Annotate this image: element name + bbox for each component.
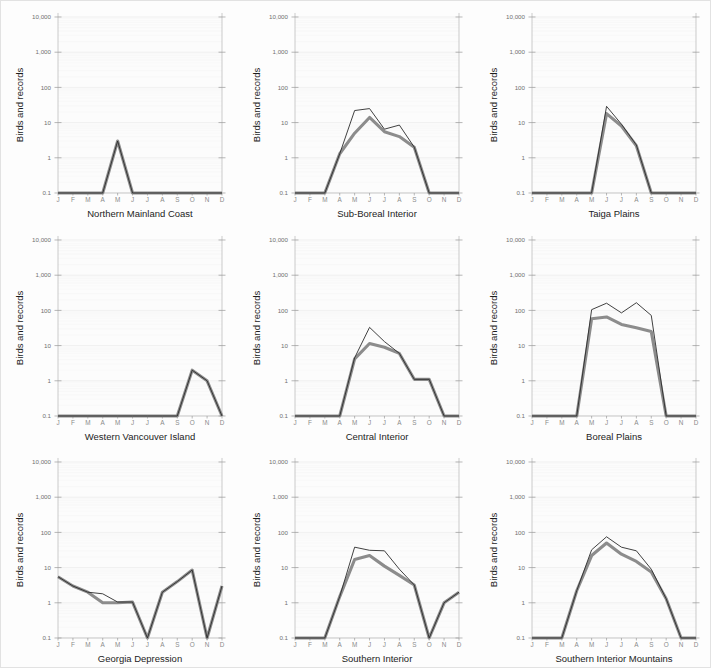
chart-panel: 0.11101001,00010,000JFMAMJJASONDBirds an…: [238, 1, 475, 224]
figure-panel-grid: 0.11101001,00010,000JFMAMJJASONDBirds an…: [0, 0, 711, 668]
y-tick-label: 0.1: [42, 412, 51, 419]
x-tick-label: N: [679, 419, 684, 426]
y-tick-label: 100: [515, 306, 526, 313]
x-tick-label: M: [559, 642, 564, 649]
x-tick-label: A: [101, 419, 106, 426]
x-tick-label: M: [589, 642, 594, 649]
y-tick-label: 100: [41, 529, 52, 536]
line-chart-7: 0.11101001,00010,000JFMAMJJASONDBirds an…: [1, 446, 238, 668]
y-tick-label: 10: [44, 341, 51, 348]
x-tick-label: M: [352, 642, 357, 649]
y-tick-label: 100: [278, 529, 289, 536]
chart-panel: 0.11101001,00010,000JFMAMJJASONDBirds an…: [1, 446, 238, 668]
line-chart-2: 0.11101001,00010,000JFMAMJJASONDBirds an…: [238, 1, 475, 224]
x-tick-label: N: [679, 196, 684, 203]
x-tick-label: M: [85, 642, 90, 649]
x-tick-label: A: [101, 196, 106, 203]
y-tick-label: 1: [48, 154, 52, 161]
x-tick-label: J: [368, 642, 371, 649]
y-axis-label: Birds and records: [488, 68, 499, 143]
y-tick-label: 10: [518, 341, 525, 348]
y-tick-label: 10: [44, 119, 51, 126]
x-tick-label: J: [293, 196, 296, 203]
x-tick-label: A: [397, 419, 402, 426]
y-axis-label: Birds and records: [14, 68, 25, 143]
x-tick-label: J: [368, 196, 371, 203]
x-tick-label: N: [205, 419, 210, 426]
x-tick-label: A: [634, 419, 639, 426]
x-tick-label: M: [589, 196, 594, 203]
x-tick-label: F: [308, 419, 312, 426]
y-tick-label: 100: [41, 306, 52, 313]
x-tick-label: F: [545, 642, 549, 649]
x-tick-label: M: [115, 642, 120, 649]
x-tick-label: O: [427, 419, 432, 426]
y-axis-label: Birds and records: [488, 513, 499, 588]
x-tick-label: N: [205, 642, 210, 649]
y-tick-label: 10,000: [269, 13, 288, 20]
line-chart-3: 0.11101001,00010,000JFMAMJJASONDBirds an…: [475, 1, 711, 224]
chart-panel: 0.11101001,00010,000JFMAMJJASONDBirds an…: [238, 446, 475, 668]
x-tick-label: F: [71, 642, 75, 649]
x-tick-label: J: [146, 419, 149, 426]
x-tick-label: M: [352, 196, 357, 203]
y-tick-label: 1,000: [36, 271, 52, 278]
x-axis-ticks: JFMAMJJASOND: [293, 416, 461, 426]
y-tick-label: 1,000: [273, 494, 289, 501]
chart-panel: 0.11101001,00010,000JFMAMJJASONDBirds an…: [475, 446, 711, 668]
x-tick-label: O: [664, 642, 669, 649]
y-tick-label: 10: [518, 119, 525, 126]
x-tick-label: D: [694, 196, 699, 203]
x-tick-label: J: [56, 642, 59, 649]
chart-panel: 0.11101001,00010,000JFMAMJJASONDBirds an…: [1, 1, 238, 224]
chart-panel: 0.11101001,00010,000JFMAMJJASONDBirds an…: [1, 224, 238, 447]
x-tick-label: O: [190, 642, 195, 649]
x-tick-label: M: [115, 419, 120, 426]
line-chart-8: 0.11101001,00010,000JFMAMJJASONDBirds an…: [238, 446, 475, 668]
y-tick-label: 10: [281, 564, 288, 571]
x-tick-label: S: [412, 419, 416, 426]
x-tick-label: S: [412, 642, 416, 649]
panel-title: Southern Interior: [342, 653, 413, 664]
x-tick-label: F: [545, 196, 549, 203]
x-tick-label: A: [397, 196, 402, 203]
x-tick-label: S: [175, 642, 179, 649]
x-tick-label: O: [427, 642, 432, 649]
y-tick-label: 0.1: [516, 189, 525, 196]
x-tick-label: J: [605, 642, 608, 649]
y-tick-label: 1,000: [510, 271, 526, 278]
x-tick-label: N: [442, 642, 447, 649]
x-tick-label: J: [605, 196, 608, 203]
x-tick-label: O: [664, 196, 669, 203]
y-tick-label: 100: [515, 529, 526, 536]
x-tick-label: J: [383, 642, 386, 649]
x-tick-label: J: [293, 419, 296, 426]
small-multiples-grid: 0.11101001,00010,000JFMAMJJASONDBirds an…: [1, 1, 711, 668]
panel-title: Southern Interior Mountains: [555, 653, 672, 664]
x-tick-label: J: [620, 419, 623, 426]
y-axis-label: Birds and records: [251, 290, 262, 365]
panel-title: Georgia Depression: [98, 653, 182, 664]
y-tick-label: 1,000: [36, 48, 52, 55]
x-tick-label: A: [634, 642, 639, 649]
chart-panel: 0.11101001,00010,000JFMAMJJASONDBirds an…: [475, 1, 711, 224]
line-chart-4: 0.11101001,00010,000JFMAMJJASONDBirds an…: [1, 224, 238, 447]
x-tick-label: J: [293, 642, 296, 649]
x-axis-ticks: JFMAMJJASOND: [56, 193, 224, 203]
y-tick-label: 100: [41, 84, 52, 91]
y-tick-label: 10,000: [32, 459, 51, 466]
x-tick-label: D: [220, 642, 225, 649]
x-tick-label: D: [220, 196, 225, 203]
x-tick-label: M: [352, 419, 357, 426]
y-tick-label: 10: [518, 564, 525, 571]
x-tick-label: S: [649, 196, 653, 203]
panel-title: Taiga Plains: [588, 208, 639, 219]
x-tick-label: F: [71, 419, 75, 426]
y-tick-label: 1: [522, 154, 526, 161]
x-tick-label: S: [175, 419, 179, 426]
panel-title: Sub-Boreal Interior: [337, 208, 417, 219]
y-tick-label: 10,000: [32, 13, 51, 20]
x-tick-label: J: [368, 419, 371, 426]
x-tick-label: J: [146, 196, 149, 203]
x-tick-label: A: [160, 419, 165, 426]
